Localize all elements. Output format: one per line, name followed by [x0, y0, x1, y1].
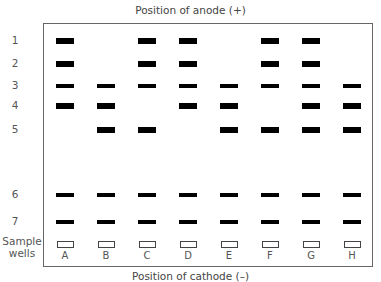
- band-H-6: [343, 193, 361, 197]
- band-E-5: [220, 127, 238, 133]
- band-F-3: [261, 84, 279, 88]
- lane-label-B: B: [96, 250, 116, 261]
- band-E-3: [220, 84, 238, 88]
- well-B: [98, 241, 115, 248]
- band-B-3: [97, 84, 115, 88]
- band-F-7: [261, 220, 279, 224]
- band-C-3: [138, 84, 156, 88]
- band-D-7: [179, 220, 197, 224]
- lane-label-F: F: [260, 250, 280, 261]
- anode-title: Position of anode (+): [0, 4, 381, 16]
- row-label-5: 5: [0, 123, 30, 135]
- well-D: [180, 241, 197, 248]
- well-H: [344, 241, 361, 248]
- lane-label-E: E: [219, 250, 239, 261]
- band-A-2: [56, 61, 74, 67]
- band-E-7: [220, 220, 238, 224]
- gel-frame: [43, 23, 373, 267]
- band-C-1: [138, 38, 156, 44]
- lane-label-A: A: [55, 250, 75, 261]
- lane-label-C: C: [137, 250, 157, 261]
- lane-label-H: H: [342, 250, 362, 261]
- band-A-1: [56, 38, 74, 44]
- band-B-6: [97, 193, 115, 197]
- well-E: [221, 241, 238, 248]
- band-G-5: [302, 127, 320, 133]
- row-label-3: 3: [0, 79, 30, 91]
- band-A-4: [56, 103, 74, 109]
- band-G-6: [302, 193, 320, 197]
- sample-label: Sample: [2, 235, 42, 247]
- band-H-7: [343, 220, 361, 224]
- band-G-1: [302, 38, 320, 44]
- row-label-1: 1: [0, 34, 30, 46]
- lane-label-D: D: [178, 250, 198, 261]
- band-G-3: [302, 84, 320, 88]
- band-C-5: [138, 127, 156, 133]
- lane-label-G: G: [301, 250, 321, 261]
- band-F-6: [261, 193, 279, 197]
- band-A-3: [56, 84, 74, 88]
- band-C-2: [138, 61, 156, 67]
- well-F: [262, 241, 279, 248]
- well-A: [57, 241, 74, 248]
- band-E-4: [220, 103, 238, 109]
- band-G-2: [302, 61, 320, 67]
- band-G-7: [302, 220, 320, 224]
- band-D-2: [179, 61, 197, 67]
- band-H-4: [343, 103, 361, 109]
- row-label-4: 4: [0, 99, 30, 111]
- band-A-6: [56, 193, 74, 197]
- cathode-title: Position of cathode (–): [0, 270, 381, 282]
- row-label-6: 6: [0, 188, 30, 200]
- band-B-7: [97, 220, 115, 224]
- band-F-5: [261, 127, 279, 133]
- band-A-7: [56, 220, 74, 224]
- band-C-6: [138, 193, 156, 197]
- well-C: [139, 241, 156, 248]
- band-H-3: [343, 84, 361, 88]
- band-E-6: [220, 193, 238, 197]
- band-F-2: [261, 61, 279, 67]
- band-D-3: [179, 84, 197, 88]
- wells-label: wells: [2, 247, 42, 259]
- band-G-4: [302, 103, 320, 109]
- band-D-4: [179, 103, 197, 109]
- well-G: [303, 241, 320, 248]
- row-label-2: 2: [0, 57, 30, 69]
- band-H-5: [343, 127, 361, 133]
- band-D-6: [179, 193, 197, 197]
- row-label-7: 7: [0, 215, 30, 227]
- band-F-1: [261, 38, 279, 44]
- band-D-1: [179, 38, 197, 44]
- band-B-5: [97, 127, 115, 133]
- band-C-7: [138, 220, 156, 224]
- band-B-4: [97, 103, 115, 109]
